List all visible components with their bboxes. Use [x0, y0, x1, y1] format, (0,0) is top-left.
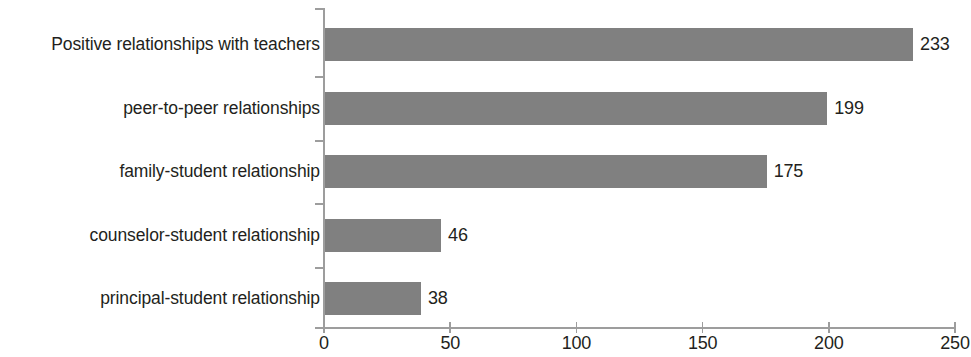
bar-row: Positive relationships with teachers233 — [0, 28, 971, 61]
x-axis-tick — [576, 322, 578, 333]
x-axis-tick — [323, 322, 325, 333]
bar-row: counselor-student relationship46 — [0, 219, 971, 252]
x-axis-tick-label: 0 — [284, 333, 364, 354]
y-axis-tick — [315, 76, 324, 78]
bar[interactable] — [325, 28, 913, 61]
bar-row: family-student relationship175 — [0, 155, 971, 188]
bar-value-label: 199 — [834, 92, 863, 125]
bar[interactable] — [325, 92, 827, 125]
bar-row: peer-to-peer relationships199 — [0, 92, 971, 125]
bar-value-label: 175 — [774, 155, 803, 188]
bar-value-label: 46 — [448, 219, 468, 252]
x-axis-tick-label: 100 — [536, 333, 616, 354]
bar[interactable] — [325, 155, 767, 188]
y-axis-tick — [315, 267, 324, 269]
x-axis-tick-label: 50 — [410, 333, 490, 354]
x-axis-tick — [828, 322, 830, 333]
y-axis-tick — [315, 203, 324, 205]
x-axis-tick — [702, 322, 704, 333]
category-label: family-student relationship — [119, 155, 320, 188]
x-axis-tick — [954, 322, 956, 333]
x-axis-tick — [449, 322, 451, 333]
plot-area: Positive relationships with teachers233p… — [0, 0, 971, 357]
bar[interactable] — [325, 219, 441, 252]
category-label: principal-student relationship — [100, 282, 320, 315]
bar[interactable] — [325, 282, 421, 315]
bar-value-label: 38 — [428, 282, 448, 315]
bar-chart: Positive relationships with teachers233p… — [0, 0, 971, 357]
x-axis-tick-label: 150 — [663, 333, 743, 354]
x-axis-tick-label: 200 — [789, 333, 869, 354]
bar-row: principal-student relationship38 — [0, 282, 971, 315]
category-label: peer-to-peer relationships — [123, 92, 320, 125]
x-axis-tick-label: 250 — [915, 333, 971, 354]
bar-value-label: 233 — [920, 28, 949, 61]
x-axis-line — [324, 327, 956, 329]
category-label: Positive relationships with teachers — [51, 28, 320, 61]
category-label: counselor-student relationship — [90, 219, 320, 252]
y-axis-tick — [315, 140, 324, 142]
y-axis-tick — [315, 8, 324, 10]
